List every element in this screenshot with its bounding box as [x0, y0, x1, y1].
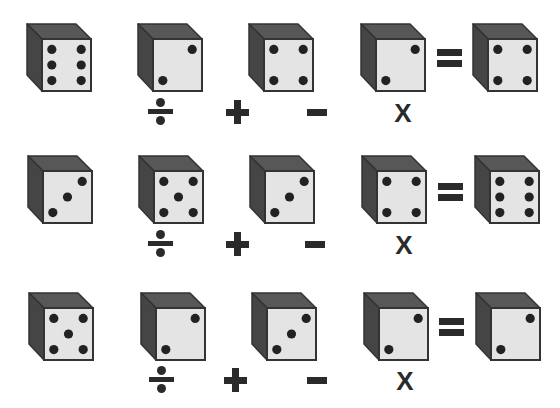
- die-face-6-icon: [474, 155, 542, 227]
- plus-sign-icon: [221, 367, 251, 395]
- die: [361, 155, 427, 225]
- die: [251, 292, 317, 362]
- equals-sign-icon: [438, 183, 468, 211]
- divide-sign-icon: [146, 98, 176, 126]
- equals-sign-icon: [439, 318, 469, 346]
- die-face-4-icon: [472, 23, 540, 95]
- die: [249, 155, 315, 225]
- die-face-2-icon: [140, 292, 208, 364]
- die-face-3-icon: [27, 155, 95, 227]
- die-face-5-icon: [28, 292, 96, 364]
- plus-sign-icon: [223, 231, 253, 259]
- divide-sign-icon: [146, 230, 176, 258]
- result-die: [474, 155, 540, 225]
- equals-sign-icon: [437, 49, 467, 77]
- die: [138, 155, 204, 225]
- result-die: [475, 292, 541, 362]
- die: [137, 23, 203, 93]
- die: [248, 23, 314, 93]
- die: [27, 155, 93, 225]
- die: [363, 292, 429, 362]
- times-sign: X: [388, 100, 418, 126]
- die-face-4-icon: [361, 155, 429, 227]
- die-face-3-icon: [249, 155, 317, 227]
- times-sign: X: [389, 232, 419, 258]
- result-die: [472, 23, 538, 93]
- die-face-2-icon: [475, 292, 543, 364]
- die-face-5-icon: [138, 155, 206, 227]
- times-sign: X: [390, 368, 420, 394]
- minus-sign-icon: [305, 367, 335, 395]
- die-face-2-icon: [137, 23, 205, 95]
- die: [140, 292, 206, 362]
- die: [28, 292, 94, 362]
- die-face-3-icon: [251, 292, 319, 364]
- plus-sign-icon: [223, 99, 253, 127]
- die-face-2-icon: [363, 292, 431, 364]
- divide-sign-icon: [147, 366, 177, 394]
- die-face-4-icon: [248, 23, 316, 95]
- die: [26, 23, 92, 93]
- minus-sign-icon: [303, 231, 333, 259]
- die: [360, 23, 426, 93]
- minus-sign-icon: [305, 99, 335, 127]
- die-face-6-icon: [26, 23, 94, 95]
- die-face-2-icon: [360, 23, 428, 95]
